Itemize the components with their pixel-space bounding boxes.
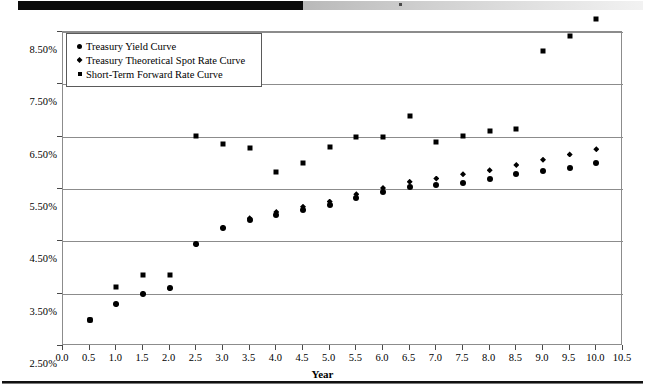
data-point: [434, 139, 439, 144]
data-point: [114, 285, 119, 290]
y-axis-label: 3.50%: [11, 307, 57, 317]
x-axis-title: Year: [0, 368, 645, 380]
data-point: [460, 180, 466, 186]
gridline: [63, 294, 623, 295]
x-axis-tick: [462, 345, 463, 350]
x-axis-tick: [62, 345, 63, 350]
x-axis-tick: [329, 345, 330, 350]
x-axis-tick: [595, 345, 596, 350]
data-point: [461, 133, 466, 138]
y-axis-tick: [57, 293, 62, 294]
y-axis-label: 4.50%: [11, 254, 57, 264]
legend-label-yield: Treasury Yield Curve: [86, 40, 176, 53]
data-point: [87, 317, 92, 322]
data-point: [487, 176, 493, 182]
y-axis-label: 7.50%: [11, 97, 57, 107]
bar-dot: [399, 3, 402, 6]
data-point: [407, 113, 412, 118]
legend-label-forward: Short-Term Forward Rate Curve: [86, 68, 223, 81]
chart-figure: 2.50%3.50%4.50%5.50%6.50%7.50%8.50% Trea…: [0, 11, 645, 379]
x-axis-tick: [569, 345, 570, 350]
black-bar: [18, 1, 303, 10]
y-axis-label: 6.50%: [11, 150, 57, 160]
bottom-rule: [2, 381, 643, 384]
data-point: [381, 134, 386, 139]
y-axis: 2.50%3.50%4.50%5.50%6.50%7.50%8.50%: [0, 31, 57, 351]
y-axis-tick: [57, 31, 62, 32]
data-point: [354, 134, 359, 139]
x-axis-tick: [489, 345, 490, 350]
legend-item-forward: Short-Term Forward Rate Curve: [73, 67, 254, 81]
data-point: [567, 34, 572, 39]
data-point: [433, 176, 439, 182]
x-axis-tick: [89, 345, 90, 350]
y-axis-tick: [57, 188, 62, 189]
data-point: [194, 133, 199, 138]
data-point: [274, 170, 279, 175]
x-axis-tick: [382, 345, 383, 350]
data-point: [540, 157, 546, 163]
data-point: [247, 146, 252, 151]
data-point: [221, 141, 226, 146]
x-axis-label: 10.5: [605, 352, 639, 363]
data-point: [460, 171, 466, 177]
x-axis-tick: [622, 345, 623, 350]
data-point: [433, 182, 439, 188]
data-point: [407, 184, 413, 190]
data-point: [594, 17, 599, 22]
x-axis-tick: [222, 345, 223, 350]
data-point: [327, 145, 332, 150]
data-point: [540, 168, 546, 174]
data-point: [593, 146, 599, 152]
data-point: [567, 165, 573, 171]
data-point: [141, 272, 146, 277]
x-axis-tick: [515, 345, 516, 350]
y-axis-tick: [57, 240, 62, 241]
data-point: [541, 48, 546, 53]
y-axis-tick: [57, 83, 62, 84]
x-axis-tick: [275, 345, 276, 350]
x-axis-tick: [142, 345, 143, 350]
x-axis-tick: [409, 345, 410, 350]
y-axis-tick: [57, 136, 62, 137]
data-point: [593, 160, 599, 166]
data-point: [567, 151, 573, 157]
y-axis-label: 5.50%: [11, 202, 57, 212]
x-axis-tick: [435, 345, 436, 350]
x-axis-tick: [302, 345, 303, 350]
legend-item-spot: Treasury Theoretical Spot Rate Curve: [73, 53, 254, 67]
x-axis-tick: [355, 345, 356, 350]
x-axis-tick: [542, 345, 543, 350]
data-point: [513, 171, 519, 177]
diamond-marker-icon: [73, 57, 86, 63]
circle-marker-icon: [73, 44, 86, 49]
gridline: [63, 241, 623, 242]
data-point: [301, 160, 306, 165]
legend-item-yield: Treasury Yield Curve: [73, 39, 254, 53]
gradient-bar: [303, 1, 643, 10]
x-axis-tick: [115, 345, 116, 350]
chart-legend: Treasury Yield Curve Treasury Theoretica…: [66, 33, 262, 87]
data-point: [487, 167, 493, 173]
gridline: [63, 189, 623, 190]
x-axis-tick: [195, 345, 196, 350]
y-axis-label: 8.50%: [11, 45, 57, 55]
top-decoration-bar: [0, 0, 645, 11]
data-point: [514, 127, 519, 132]
square-marker-icon: [73, 72, 86, 76]
data-point: [487, 129, 492, 134]
data-point: [513, 162, 519, 168]
data-point: [167, 272, 172, 277]
gridline: [63, 137, 623, 138]
legend-label-spot: Treasury Theoretical Spot Rate Curve: [86, 54, 245, 67]
x-axis-tick: [169, 345, 170, 350]
x-axis-tick: [249, 345, 250, 350]
